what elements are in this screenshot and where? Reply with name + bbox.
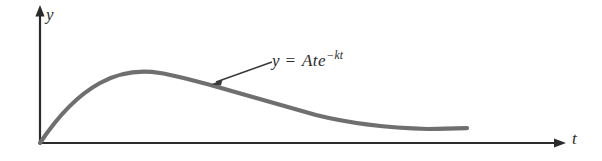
t-axis-arrowhead-icon <box>554 138 566 147</box>
equation-annotation: y=Ate−kt <box>272 50 343 69</box>
annotation-arrowhead-icon <box>211 80 223 86</box>
y-axis-arrowhead-icon <box>35 5 44 17</box>
equation-operator: = <box>285 51 296 70</box>
curve-path <box>40 72 467 143</box>
y-axis-label: y <box>46 6 54 23</box>
graph-canvas <box>0 0 602 161</box>
t-axis <box>40 138 566 147</box>
t-axis-label: t <box>572 130 577 147</box>
equation-exponent: −kt <box>326 49 343 61</box>
annotation-leader <box>211 62 272 86</box>
annotation-leader-line <box>216 62 272 82</box>
equation-base: Ate <box>302 51 326 70</box>
figure-graph-exponential-decay: y t y=Ate−kt <box>0 0 602 161</box>
equation-lhs: y <box>272 51 280 70</box>
y-axis <box>35 5 44 143</box>
